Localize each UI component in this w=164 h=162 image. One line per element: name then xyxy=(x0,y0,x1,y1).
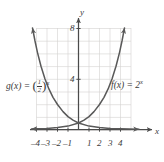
axes xyxy=(30,18,152,130)
exponential-functions-graph: y x 8 4 –4 –3 –2 –1 1 2 3 4 g(x) = (12)x… xyxy=(0,0,164,162)
x-tick-label-minus-4: –4 xyxy=(31,139,40,148)
x-axis-label: x xyxy=(155,127,159,136)
x-tick-label-minus-1: –1 xyxy=(63,139,72,148)
fraction-denominator: 2 xyxy=(37,87,41,94)
function-label-g: g(x) = (12)x xyxy=(6,78,49,94)
x-tick-label-1: 1 xyxy=(87,139,92,148)
paren-open-icon: ( xyxy=(32,78,36,93)
y-tick-label-4: 4 xyxy=(70,75,75,84)
fraction-one-half: 12 xyxy=(37,79,41,94)
y-axis-label: y xyxy=(80,8,84,17)
function-label-g-exponent: x xyxy=(46,79,49,86)
function-label-f-lhs: f(x) = 2 xyxy=(111,80,140,90)
x-tick-label-4: 4 xyxy=(118,139,123,148)
paren-close-icon: ) xyxy=(42,78,46,93)
function-label-f-exponent: x xyxy=(140,78,143,85)
x-tick-label-minus-3: –3 xyxy=(41,139,50,148)
y-tick-label-8: 8 xyxy=(70,24,75,33)
x-tick-label-3: 3 xyxy=(108,139,113,148)
function-label-g-lhs: g(x) = xyxy=(6,81,32,91)
x-tick-label-2: 2 xyxy=(97,139,102,148)
function-label-f: f(x) = 2x xyxy=(111,79,143,91)
x-tick-label-minus-2: –2 xyxy=(52,139,61,148)
